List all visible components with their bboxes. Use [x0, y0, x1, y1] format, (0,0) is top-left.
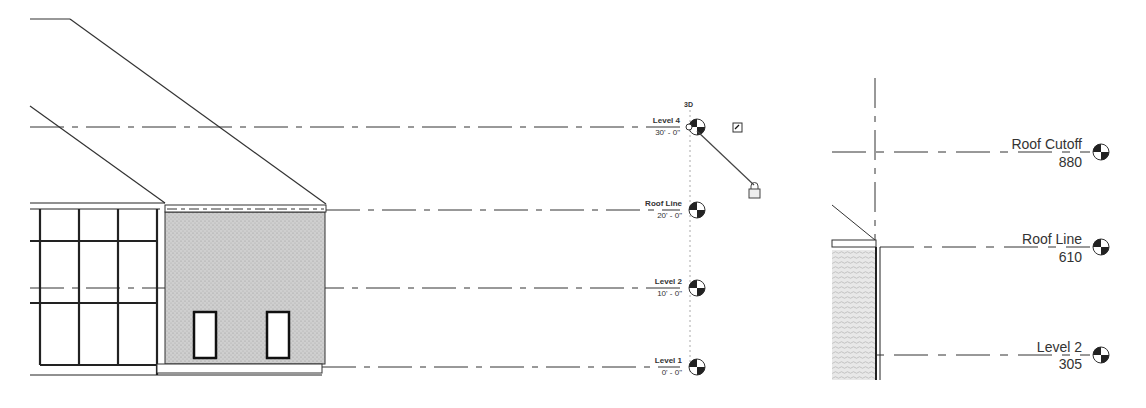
roof-lines — [30, 19, 326, 204]
level-name-roof-cutoff[interactable]: Roof Cutoff — [1011, 137, 1082, 151]
level-head-level1[interactable] — [689, 359, 705, 375]
level-head-roof-line-right[interactable] — [1093, 239, 1109, 255]
level-elevation-roof-cutoff[interactable]: 880 — [1059, 155, 1082, 169]
level-lines-left — [30, 127, 680, 367]
level-elevation-level2[interactable]: 10' - 0" — [657, 290, 682, 298]
checkbox-hide-bubble[interactable] — [733, 123, 742, 132]
window — [267, 312, 289, 358]
brick-wall-section — [832, 250, 876, 380]
level-name-level1[interactable]: Level 1 — [655, 357, 682, 365]
level-name-roofline[interactable]: Roof Line — [645, 200, 682, 208]
level-elevation-level1[interactable]: 0' - 0" — [662, 369, 682, 377]
level-name-level2[interactable]: Level 2 — [655, 278, 682, 286]
lock-icon[interactable] — [749, 183, 760, 198]
window — [194, 312, 216, 358]
masonry-wall — [165, 212, 325, 364]
level-head-roof-cutoff[interactable] — [1093, 144, 1109, 160]
level-head-level2[interactable] — [689, 280, 705, 296]
level-elevation-roofline[interactable]: 20' - 0" — [657, 212, 682, 220]
level-name-level2-right[interactable]: Level 2 — [1037, 340, 1082, 354]
level-name-roof-line-right[interactable]: Roof Line — [1022, 232, 1082, 246]
elevation-drawing — [0, 0, 1146, 408]
level-elevation-roof-line-right[interactable]: 610 — [1059, 250, 1082, 264]
level-head-level2-right[interactable] — [1093, 347, 1109, 363]
level-elevation-level2-right[interactable]: 305 — [1059, 357, 1082, 371]
level-name-level4[interactable]: Level 4 — [653, 117, 680, 125]
level-head-roofline[interactable] — [689, 202, 705, 218]
level-elevation-level4[interactable]: 30' - 0" — [655, 129, 680, 137]
view-label: 3D — [684, 101, 693, 108]
